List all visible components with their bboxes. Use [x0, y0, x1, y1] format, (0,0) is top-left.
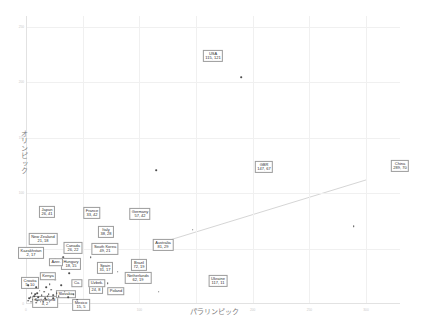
- data-point[interactable]: [27, 300, 29, 302]
- point-label-box: Canada26, 22: [63, 242, 82, 254]
- point-label-values: 15, 5: [75, 305, 88, 310]
- data-point[interactable]: [31, 301, 33, 303]
- data-point[interactable]: [33, 295, 35, 297]
- data-point[interactable]: [39, 290, 41, 292]
- data-point[interactable]: [117, 271, 119, 273]
- y-axis-tick-label: 200: [19, 80, 24, 84]
- data-point[interactable]: [52, 298, 54, 300]
- point-label-box: France33, 42: [83, 207, 100, 219]
- point-label-name: Kenya: [42, 274, 53, 279]
- point-label-box: Japan26, 41: [39, 206, 55, 218]
- gridline-horizontal: [26, 82, 400, 83]
- point-label-box: Uzbek.: [88, 279, 105, 287]
- data-point[interactable]: [31, 292, 33, 294]
- data-point[interactable]: [192, 229, 194, 231]
- point-label-values: 49, 21: [94, 249, 116, 254]
- point-label-values: 33, 42: [86, 213, 98, 218]
- data-point[interactable]: [27, 284, 29, 286]
- point-label-box: GBR147, 67: [255, 161, 273, 173]
- point-label-values: 38, 28: [100, 232, 111, 237]
- data-point[interactable]: [49, 301, 51, 303]
- point-label-name: Slovakia: [58, 292, 73, 297]
- point-label-values: 26, 22: [66, 248, 80, 253]
- data-point[interactable]: [73, 293, 75, 295]
- point-label-name: Poland: [110, 289, 122, 294]
- point-label-values: 115, 121: [205, 56, 220, 61]
- point-label-values: 4, 2: [35, 302, 56, 307]
- point-label-box: South Korea49, 21: [91, 243, 118, 255]
- x-axis-tick-label: 0: [25, 308, 27, 312]
- point-label-name: Cu.: [74, 281, 80, 286]
- data-point[interactable]: [49, 283, 51, 285]
- point-label-values: 147, 67: [257, 167, 270, 172]
- x-axis-title: パラリンピック: [190, 306, 239, 316]
- point-label-values: 2, 17: [21, 253, 42, 258]
- point-label-box: Kazakhstan2, 17: [18, 247, 44, 259]
- point-label-box: Netherlands62, 19: [125, 272, 152, 284]
- point-label-values: 26, 41: [41, 212, 52, 217]
- point-label-box: Azer.: [49, 258, 63, 266]
- data-point[interactable]: [158, 291, 160, 293]
- point-label-box: Spain31, 17: [97, 262, 113, 274]
- point-label-values: 18, 15: [63, 264, 78, 269]
- plot-area: 050100150200250300050100150200250USA115,…: [26, 16, 400, 304]
- y-axis-tick-label: 100: [19, 191, 24, 195]
- gridline-vertical: [83, 16, 84, 304]
- point-label-box: Australia81, 29: [153, 239, 174, 251]
- data-point[interactable]: [30, 297, 32, 299]
- point-label-box: USA115, 121: [203, 50, 223, 62]
- data-point[interactable]: [50, 289, 52, 291]
- data-point[interactable]: [68, 272, 70, 274]
- point-label-values: 117, 11: [211, 281, 225, 286]
- data-point[interactable]: [90, 257, 92, 259]
- point-label-values: 81, 29: [155, 245, 171, 250]
- point-label-name: Uzbek.: [91, 281, 103, 286]
- data-point[interactable]: [38, 297, 40, 299]
- data-point[interactable]: [34, 293, 36, 295]
- gridline-vertical: [309, 16, 310, 304]
- point-label-name: Azer.: [51, 260, 60, 265]
- point-label-values: 289, 70: [393, 166, 406, 171]
- data-point[interactable]: [47, 295, 49, 297]
- x-axis-tick-label: 200: [250, 308, 255, 312]
- data-point[interactable]: [67, 297, 69, 299]
- data-point[interactable]: [35, 287, 37, 289]
- point-label-box: Ukraine117, 11: [209, 275, 228, 287]
- data-point[interactable]: [353, 226, 355, 228]
- data-point[interactable]: [60, 284, 62, 286]
- x-axis-tick-label: 300: [363, 308, 368, 312]
- data-point[interactable]: [41, 294, 43, 296]
- data-point[interactable]: [56, 292, 58, 294]
- data-point[interactable]: [76, 299, 78, 301]
- data-point[interactable]: [46, 299, 48, 301]
- data-point[interactable]: [156, 169, 158, 171]
- point-label-box: Cu.: [71, 279, 82, 287]
- y-axis-title: オリンピック: [19, 130, 29, 174]
- data-point[interactable]: [107, 282, 109, 284]
- point-label-box: Brazil72, 19: [131, 259, 147, 271]
- data-point[interactable]: [48, 293, 50, 295]
- data-point[interactable]: [42, 301, 44, 303]
- x-axis-tick-label: 250: [307, 308, 312, 312]
- point-label-box: Hungary18, 15: [61, 258, 81, 270]
- point-label-box: China289, 70: [391, 160, 409, 172]
- data-point[interactable]: [58, 295, 60, 297]
- point-label-box: Germany57, 42: [129, 208, 150, 220]
- point-label-values: 57, 42: [132, 214, 148, 219]
- y-axis-tick-label: 250: [19, 25, 24, 29]
- point-label-box: Italy38, 28: [98, 226, 114, 238]
- x-axis-tick-label: 100: [137, 308, 142, 312]
- gridline-vertical: [366, 16, 367, 304]
- point-label-values: 72, 19: [133, 265, 144, 270]
- data-point[interactable]: [46, 287, 48, 289]
- point-label-box: Mexico15, 5: [72, 299, 90, 311]
- point-label-box: Kenya: [40, 272, 56, 280]
- data-point[interactable]: [64, 291, 66, 293]
- data-point[interactable]: [35, 302, 37, 304]
- point-label-values: 21, 18: [31, 239, 55, 244]
- gridline-horizontal: [26, 193, 400, 194]
- gridline-horizontal: [26, 138, 400, 139]
- data-point[interactable]: [43, 291, 45, 293]
- data-point[interactable]: [37, 292, 39, 294]
- data-point[interactable]: [241, 76, 243, 78]
